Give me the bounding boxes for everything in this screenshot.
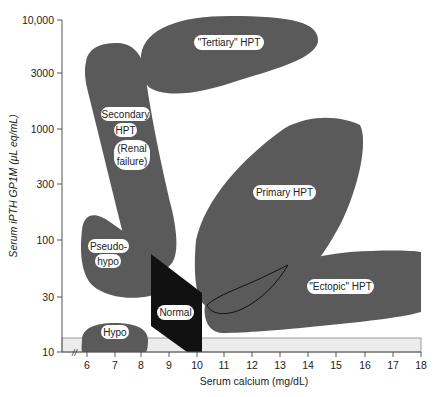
svg-text:Primary HPT: Primary HPT	[256, 187, 313, 198]
label-primary-hpt: Primary HPT	[253, 185, 316, 200]
svg-text:1000: 1000	[31, 123, 55, 135]
svg-text:17: 17	[387, 359, 399, 371]
svg-text:failure): failure)	[117, 156, 148, 167]
label-tertiary-hpt: "Tertiary" HPT	[194, 35, 264, 50]
svg-text:Pseudo-: Pseudo-	[90, 241, 127, 252]
svg-text:10,000: 10,000	[22, 14, 54, 26]
svg-text:10: 10	[191, 359, 203, 371]
svg-text:10: 10	[42, 346, 54, 358]
y-ticks	[57, 20, 62, 352]
svg-text:11: 11	[219, 359, 230, 371]
y-axis-title: Serum iPTH GP1M (μL eq/mL)	[7, 114, 19, 257]
svg-text:12: 12	[246, 359, 258, 371]
svg-text:hypo: hypo	[97, 256, 119, 267]
svg-text:300: 300	[36, 178, 54, 190]
svg-text:6: 6	[84, 359, 90, 371]
svg-text:18: 18	[415, 359, 427, 371]
svg-text:9: 9	[166, 359, 172, 371]
svg-text:14: 14	[302, 359, 314, 371]
x-axis-title: Serum calcium (mg/dL)	[200, 375, 309, 387]
label-hypo: Hypo	[101, 325, 129, 339]
svg-text:3000: 3000	[31, 67, 55, 79]
svg-text:HPT: HPT	[116, 125, 136, 136]
y-tick-labels: 10,000 3000 1000 300 100 30 10	[22, 14, 54, 358]
label-normal: Normal	[157, 305, 194, 320]
region-tertiary-hpt	[141, 16, 319, 94]
svg-text:Hypo: Hypo	[103, 327, 127, 338]
svg-text:16: 16	[359, 359, 371, 371]
svg-text:30: 30	[42, 291, 54, 303]
parathyroid-diagram: 10,000 3000 1000 300 100 30 10 6 7 8 9 1…	[0, 0, 437, 397]
svg-text:(Renal: (Renal	[117, 143, 146, 154]
svg-text:8: 8	[138, 359, 144, 371]
svg-text:7: 7	[112, 359, 118, 371]
x-tick-labels: 6 7 8 9 10 11 12 13 14 15 16 17 18	[84, 359, 427, 371]
label-ectopic-hpt: "Ectopic" HPT	[307, 279, 374, 294]
svg-text:"Ectopic" HPT: "Ectopic" HPT	[309, 281, 372, 292]
svg-text:"Tertiary" HPT: "Tertiary" HPT	[198, 37, 261, 48]
x-ticks	[87, 352, 421, 357]
region-normal	[151, 254, 202, 352]
svg-text:13: 13	[274, 359, 286, 371]
svg-text:Normal: Normal	[159, 307, 191, 318]
svg-text:15: 15	[330, 359, 342, 371]
svg-text:100: 100	[36, 234, 54, 246]
svg-text:Secondary: Secondary	[102, 109, 150, 120]
